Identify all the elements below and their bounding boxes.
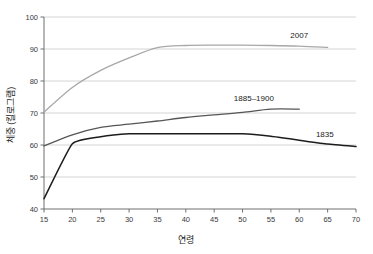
series-label-1885-1900: 1885–1900 xyxy=(234,94,275,103)
x-axis-tick-label: 40 xyxy=(182,215,190,224)
x-axis-tick-label: 15 xyxy=(40,215,48,224)
series-label-1835: 1835 xyxy=(316,130,334,139)
chart-container: 152025303540455055606570 405060708090100… xyxy=(0,0,373,254)
line-chart: 152025303540455055606570 405060708090100… xyxy=(0,0,373,254)
x-axis-tick-label: 55 xyxy=(267,215,275,224)
y-axis-title: 체중 (킬로그램) xyxy=(5,87,16,144)
x-axis-tick-label: 45 xyxy=(210,215,218,224)
y-axis-tick-label: 60 xyxy=(30,141,38,150)
y-axis-tick-label: 80 xyxy=(30,77,38,86)
x-axis-tick-label: 30 xyxy=(125,215,133,224)
y-axis-tick-label: 90 xyxy=(30,45,38,54)
x-axis-tick-label: 25 xyxy=(97,215,105,224)
y-axis-tick-label: 40 xyxy=(30,205,38,214)
y-axis-tick-label: 50 xyxy=(30,173,38,182)
y-axis-tick-label: 70 xyxy=(30,109,38,118)
x-axis-tick-label: 70 xyxy=(352,215,360,224)
x-axis-tick-label: 35 xyxy=(153,215,161,224)
y-axis-tick-label: 100 xyxy=(25,13,38,22)
x-axis-tick-label: 50 xyxy=(238,215,246,224)
x-axis-tick-label: 60 xyxy=(295,215,303,224)
x-axis-title: 연령 xyxy=(178,234,194,245)
series-label-2007: 2007 xyxy=(290,31,308,40)
x-axis-tick-label: 20 xyxy=(68,215,76,224)
x-axis-tick-label: 65 xyxy=(323,215,331,224)
